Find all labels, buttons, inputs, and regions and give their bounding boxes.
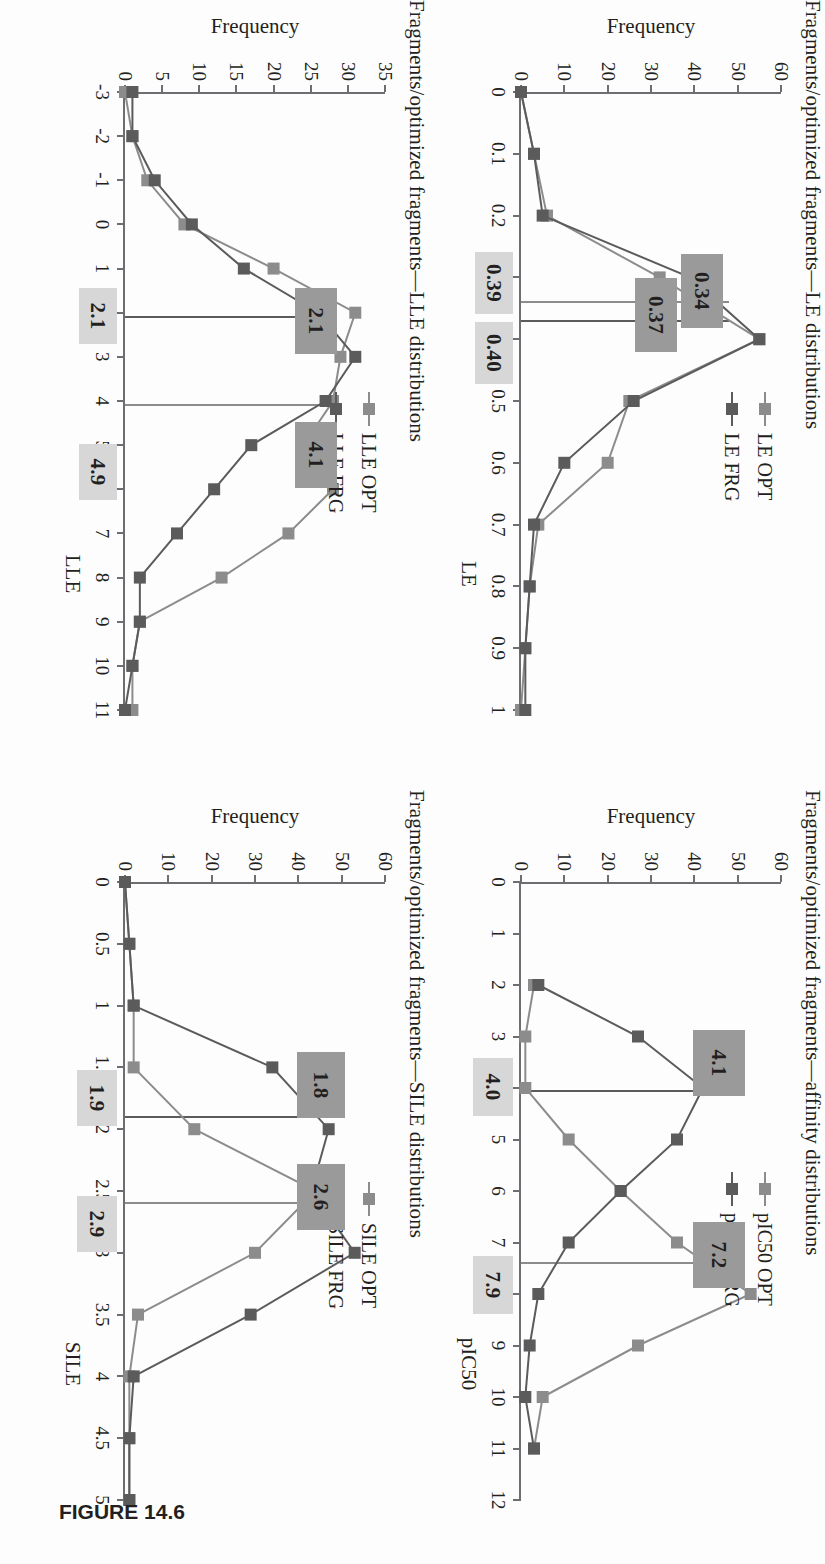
- x-tick-label: 7: [487, 1238, 509, 1248]
- data-point-marker: [245, 439, 257, 451]
- y-tick-label: 5: [151, 72, 173, 82]
- legend-item: LE FRG: [722, 392, 742, 501]
- data-point-marker: [532, 979, 544, 991]
- y-tick-label: 50: [727, 852, 749, 871]
- x-tick-label: 11: [91, 701, 113, 719]
- y-tick-label: 40: [287, 852, 309, 871]
- x-tick-label: 0.5: [487, 389, 509, 413]
- data-point-marker: [671, 1237, 683, 1249]
- data-point-marker: [524, 1340, 536, 1352]
- y-tick-label: 30: [337, 62, 359, 81]
- y-tick: [384, 875, 386, 882]
- legend-label: SILE OPT: [359, 1223, 379, 1308]
- x-tick-label: 12: [487, 1491, 509, 1510]
- y-tick-label: 15: [225, 62, 247, 81]
- y-tick: [563, 875, 565, 882]
- x-tick-label: 4: [91, 396, 113, 406]
- y-tick: [310, 85, 312, 92]
- legend-item: SILE OPT: [359, 1182, 379, 1309]
- x-tick-label: 1: [91, 264, 113, 274]
- data-point-marker: [349, 307, 361, 319]
- x-tick-label: 10: [487, 1388, 509, 1407]
- y-tick-label: 60: [770, 62, 792, 81]
- x-tick-label: 1: [91, 1001, 113, 1011]
- callout-dark: 2.6: [297, 1164, 345, 1230]
- y-tick: [780, 85, 782, 92]
- y-tick-label: 30: [640, 852, 662, 871]
- x-tick-label: 3.5: [91, 1303, 113, 1327]
- x-tick-label: 9: [487, 1341, 509, 1351]
- y-tick-label: 10: [553, 62, 575, 81]
- y-tick-label: 35: [374, 62, 396, 81]
- data-point-marker: [134, 572, 146, 584]
- y-tick-label: 40: [683, 62, 705, 81]
- x-tick-label: 0.9: [487, 636, 509, 660]
- callout-dark: 7.2: [693, 1222, 745, 1288]
- x-tick-label: 5: [487, 1135, 509, 1145]
- data-point-marker: [282, 527, 294, 539]
- data-point-marker: [558, 457, 570, 469]
- y-tick: [347, 85, 349, 92]
- x-tick-label: 4.5: [91, 1426, 113, 1450]
- legend-marker-icon: [726, 392, 738, 426]
- x-tick-label: 3: [91, 352, 113, 362]
- x-tick-label: -2: [91, 128, 113, 144]
- data-point-marker: [123, 1432, 135, 1444]
- data-point-marker: [245, 1309, 257, 1321]
- series-sile-opt: [119, 876, 322, 1506]
- y-tick: [650, 85, 652, 92]
- y-tick: [211, 875, 213, 882]
- y-tick: [780, 875, 782, 882]
- panel-lle: Fragments/optimized fragments—LLE distri…: [37, 0, 429, 760]
- legend-marker-icon: [726, 1172, 738, 1206]
- data-point-marker: [632, 1340, 644, 1352]
- data-point-marker: [128, 1370, 140, 1382]
- callout-dark: 1.8: [297, 1052, 345, 1118]
- callout-light: 4.9: [79, 444, 117, 500]
- data-point-marker: [216, 572, 228, 584]
- x-tick-label: 8: [91, 573, 113, 583]
- panel-sile: Fragments/optimized fragments—SILE distr…: [37, 790, 429, 1550]
- callout-dark: 0.37: [635, 278, 677, 352]
- data-point-marker: [528, 1443, 540, 1455]
- x-tick-label: 1: [487, 929, 509, 939]
- callout-light: 0.40: [475, 322, 513, 384]
- callout-dark: 2.1: [295, 288, 337, 354]
- data-point-marker: [134, 616, 146, 628]
- legend-label: LE OPT: [755, 433, 775, 500]
- y-tick-label: 50: [331, 852, 353, 871]
- x-axis-title: LLE: [60, 555, 85, 593]
- legend-marker-icon: [363, 392, 375, 426]
- series-pic50-frg: [519, 979, 709, 1455]
- x-tick-label: 6: [487, 1186, 509, 1196]
- x-tick-label: 11: [487, 1439, 509, 1457]
- y-tick-label: 20: [201, 852, 223, 871]
- data-point-marker: [532, 1288, 544, 1300]
- y-tick-label: 50: [727, 62, 749, 81]
- data-point-marker: [186, 218, 198, 230]
- data-point-marker: [519, 704, 531, 716]
- legend-item: pIC50 OPT: [755, 1172, 775, 1307]
- legend-marker-icon: [330, 392, 342, 426]
- data-point-marker: [528, 519, 540, 531]
- callout-dark: 4.1: [693, 1030, 745, 1096]
- y-tick-label: 10: [157, 852, 179, 871]
- callout-light: 2.9: [77, 1196, 117, 1252]
- x-axis-title: SILE: [60, 1342, 85, 1386]
- y-axis-title: Frequency: [211, 804, 300, 829]
- series-line: [125, 882, 316, 1500]
- y-tick-label: 0: [114, 862, 136, 872]
- legend-item: LE OPT: [755, 392, 775, 501]
- y-axis-title: Frequency: [211, 14, 300, 39]
- x-tick-label: 3: [487, 1032, 509, 1042]
- x-tick-label: 0: [487, 877, 509, 887]
- y-tick-label: 20: [263, 62, 285, 81]
- data-point-marker: [519, 642, 531, 654]
- data-point-marker: [515, 86, 527, 98]
- x-tick-label: 0.7: [487, 513, 509, 537]
- panel-pic50-title: Fragments/optimized fragments—affinity d…: [800, 790, 825, 1550]
- x-tick-label: -3: [91, 84, 113, 100]
- callout-light: 7.9: [473, 1256, 513, 1314]
- data-point-marker: [563, 1237, 575, 1249]
- x-tick-label: 0.8: [487, 575, 509, 599]
